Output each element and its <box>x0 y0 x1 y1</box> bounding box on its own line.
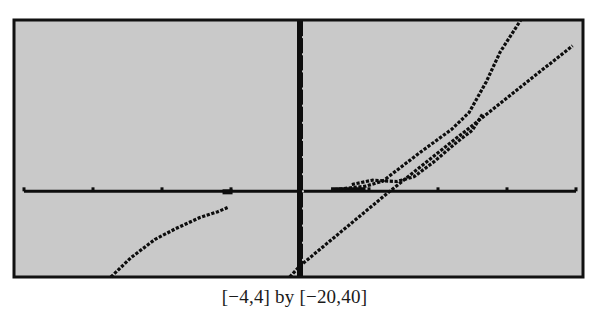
y-tick <box>302 156 304 158</box>
calculator-graph-screen <box>0 0 589 285</box>
y-tick <box>302 173 304 175</box>
y-tick <box>302 242 304 244</box>
y-tick <box>302 207 304 209</box>
y-tick <box>302 36 304 38</box>
y-tick <box>302 105 304 107</box>
y-tick <box>302 53 304 55</box>
y-tick <box>302 88 304 90</box>
window-caption: [−4,4] by [−20,40] <box>0 286 589 308</box>
y-tick <box>302 225 304 227</box>
y-tick <box>302 70 304 72</box>
y-tick <box>302 190 304 192</box>
overlap-blob <box>223 189 233 194</box>
y-tick <box>302 122 304 124</box>
y-tick <box>302 139 304 141</box>
y-tick <box>302 259 304 261</box>
